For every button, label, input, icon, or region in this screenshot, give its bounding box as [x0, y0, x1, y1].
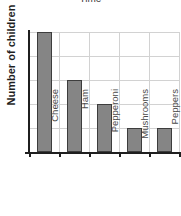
y-axis-label: Number of children: [5, 0, 21, 115]
x-axis-tick-label: Peppers: [169, 89, 181, 159]
y-axis-line: [28, 30, 30, 153]
chart-title: Time: [0, 0, 181, 3]
x-axis-tick-label: Mushrooms: [139, 89, 151, 159]
bar-chart-figure: Time Number of children CheeseHamPeppero…: [0, 0, 181, 216]
x-axis-tick-label: Ham: [79, 89, 91, 159]
x-axis-tick-label: Cheese: [49, 89, 61, 159]
x-axis-tick-label: Pepperoni: [109, 89, 121, 159]
x-axis-tick: [29, 152, 31, 157]
